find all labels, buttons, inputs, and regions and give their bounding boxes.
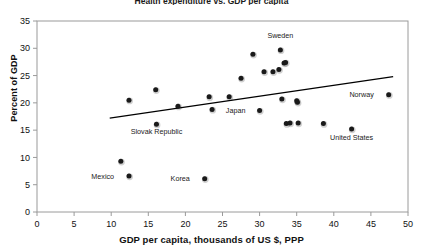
y-tick-label: 15 bbox=[20, 125, 30, 135]
data-point bbox=[227, 94, 232, 99]
x-tick-label: 0 bbox=[34, 219, 39, 229]
data-point bbox=[153, 87, 158, 92]
plot-area: 05101520253035404550 05101520253035 Swed… bbox=[0, 0, 423, 251]
data-point bbox=[270, 69, 275, 74]
data-point bbox=[239, 76, 244, 81]
point-labels: SwedenSlovak RepublicMexicoKoreaJapanUni… bbox=[91, 31, 374, 183]
x-tick-label: 20 bbox=[180, 219, 190, 229]
data-point bbox=[321, 121, 326, 126]
data-point bbox=[250, 52, 255, 57]
x-tick-label: 25 bbox=[217, 219, 227, 229]
scatter-chart: Health expenditure vs. GDP per capita Pe… bbox=[0, 0, 423, 251]
point-label: United States bbox=[330, 133, 374, 142]
x-tick-label: 5 bbox=[72, 219, 77, 229]
y-tick-label: 20 bbox=[20, 98, 30, 108]
data-point bbox=[202, 176, 207, 181]
data-point bbox=[210, 107, 215, 112]
point-label: Norway bbox=[349, 90, 374, 99]
x-tick-label: 35 bbox=[292, 219, 302, 229]
y-tick-label: 25 bbox=[20, 71, 30, 81]
data-point bbox=[257, 108, 262, 113]
data-point bbox=[262, 69, 267, 74]
point-label: Mexico bbox=[91, 172, 114, 181]
x-tick-label: 45 bbox=[366, 219, 376, 229]
y-axis-ticks: 05101520253035 bbox=[20, 16, 37, 217]
y-tick-label: 0 bbox=[25, 207, 30, 217]
data-point bbox=[283, 60, 288, 65]
data-point bbox=[296, 121, 301, 126]
x-tick-label: 30 bbox=[255, 219, 265, 229]
y-tick-label: 5 bbox=[25, 180, 30, 190]
data-point bbox=[278, 47, 283, 52]
data-point bbox=[386, 92, 391, 97]
data-point bbox=[175, 104, 180, 109]
point-label: Slovak Republic bbox=[131, 127, 183, 136]
data-point bbox=[288, 121, 293, 126]
data-point bbox=[276, 67, 281, 72]
plot-frame bbox=[37, 21, 408, 212]
data-point bbox=[295, 100, 300, 105]
point-label: Korea bbox=[171, 174, 190, 183]
data-point bbox=[279, 97, 284, 102]
x-tick-label: 50 bbox=[403, 219, 413, 229]
data-point bbox=[154, 122, 159, 127]
x-axis-ticks: 05101520253035404550 bbox=[34, 212, 413, 229]
x-tick-label: 15 bbox=[143, 219, 153, 229]
y-tick-label: 30 bbox=[20, 43, 30, 53]
data-point bbox=[349, 127, 354, 132]
x-tick-label: 10 bbox=[106, 219, 116, 229]
y-tick-label: 10 bbox=[20, 153, 30, 163]
data-point bbox=[127, 98, 132, 103]
y-tick-label: 35 bbox=[20, 16, 30, 26]
point-label: Japan bbox=[226, 106, 246, 115]
data-points bbox=[118, 47, 393, 183]
data-point bbox=[118, 159, 123, 164]
data-point bbox=[207, 94, 212, 99]
data-point bbox=[127, 173, 132, 178]
point-label: Sweden bbox=[267, 31, 293, 40]
x-tick-label: 40 bbox=[329, 219, 339, 229]
